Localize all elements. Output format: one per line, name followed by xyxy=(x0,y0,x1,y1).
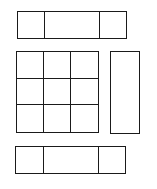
grid-cell-r1c3 xyxy=(71,52,98,79)
top-bar xyxy=(17,11,127,39)
top-bar-middle-cell xyxy=(44,12,99,38)
bottom-bar-middle-cell xyxy=(43,147,98,173)
grid-3x3 xyxy=(16,51,99,133)
grid-cell-r3c1 xyxy=(17,105,44,132)
top-bar-left-cell xyxy=(18,12,44,38)
bottom-bar-right-cell xyxy=(98,147,125,173)
grid-cell-r1c1 xyxy=(17,52,44,79)
grid-cell-r3c3 xyxy=(71,105,98,132)
top-bar-right-cell xyxy=(99,12,126,38)
bottom-bar-left-cell xyxy=(16,147,43,173)
grid-cell-r3c2 xyxy=(44,105,71,132)
side-panel xyxy=(110,51,140,134)
grid-cell-r2c3 xyxy=(71,79,98,106)
grid-cell-r2c1 xyxy=(17,79,44,106)
grid-cell-r2c2 xyxy=(44,79,71,106)
grid-cell-r1c2 xyxy=(44,52,71,79)
bottom-bar xyxy=(15,146,126,174)
